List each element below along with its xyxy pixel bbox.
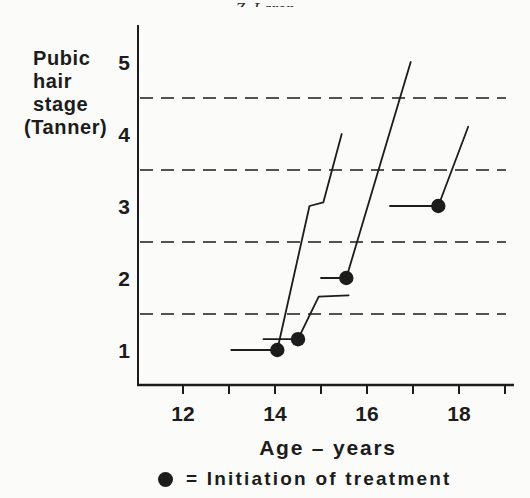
treatment-dot-patient-4 xyxy=(431,199,445,213)
chart-canvas: 1214161854321 xyxy=(0,0,530,498)
x-tick-label-12: 12 xyxy=(171,402,194,425)
y-tick-label-4: 4 xyxy=(118,123,130,146)
tanner-stage-figure: Z. Laron Pubic hair stage (Tanner) 12141… xyxy=(0,0,530,498)
legend-label: = Initiation of treatment xyxy=(186,468,452,490)
series-line-patient-4 xyxy=(390,127,468,206)
x-axis-title: Age – years xyxy=(248,436,408,460)
legend: = Initiation of treatment xyxy=(158,468,452,490)
legend-filled-circle-icon xyxy=(158,472,173,487)
x-tick-label-16: 16 xyxy=(355,402,378,425)
treatment-dot-patient-2 xyxy=(291,332,305,346)
y-tick-label-5: 5 xyxy=(118,51,130,74)
x-tick-label-18: 18 xyxy=(447,402,471,425)
series-line-patient-2 xyxy=(264,295,349,339)
y-tick-label-3: 3 xyxy=(118,195,130,218)
treatment-dot-patient-1 xyxy=(270,343,284,357)
y-tick-label-2: 2 xyxy=(118,267,130,290)
y-tick-label-1: 1 xyxy=(118,339,130,362)
treatment-dot-patient-3 xyxy=(339,271,353,285)
x-tick-label-14: 14 xyxy=(263,402,287,425)
